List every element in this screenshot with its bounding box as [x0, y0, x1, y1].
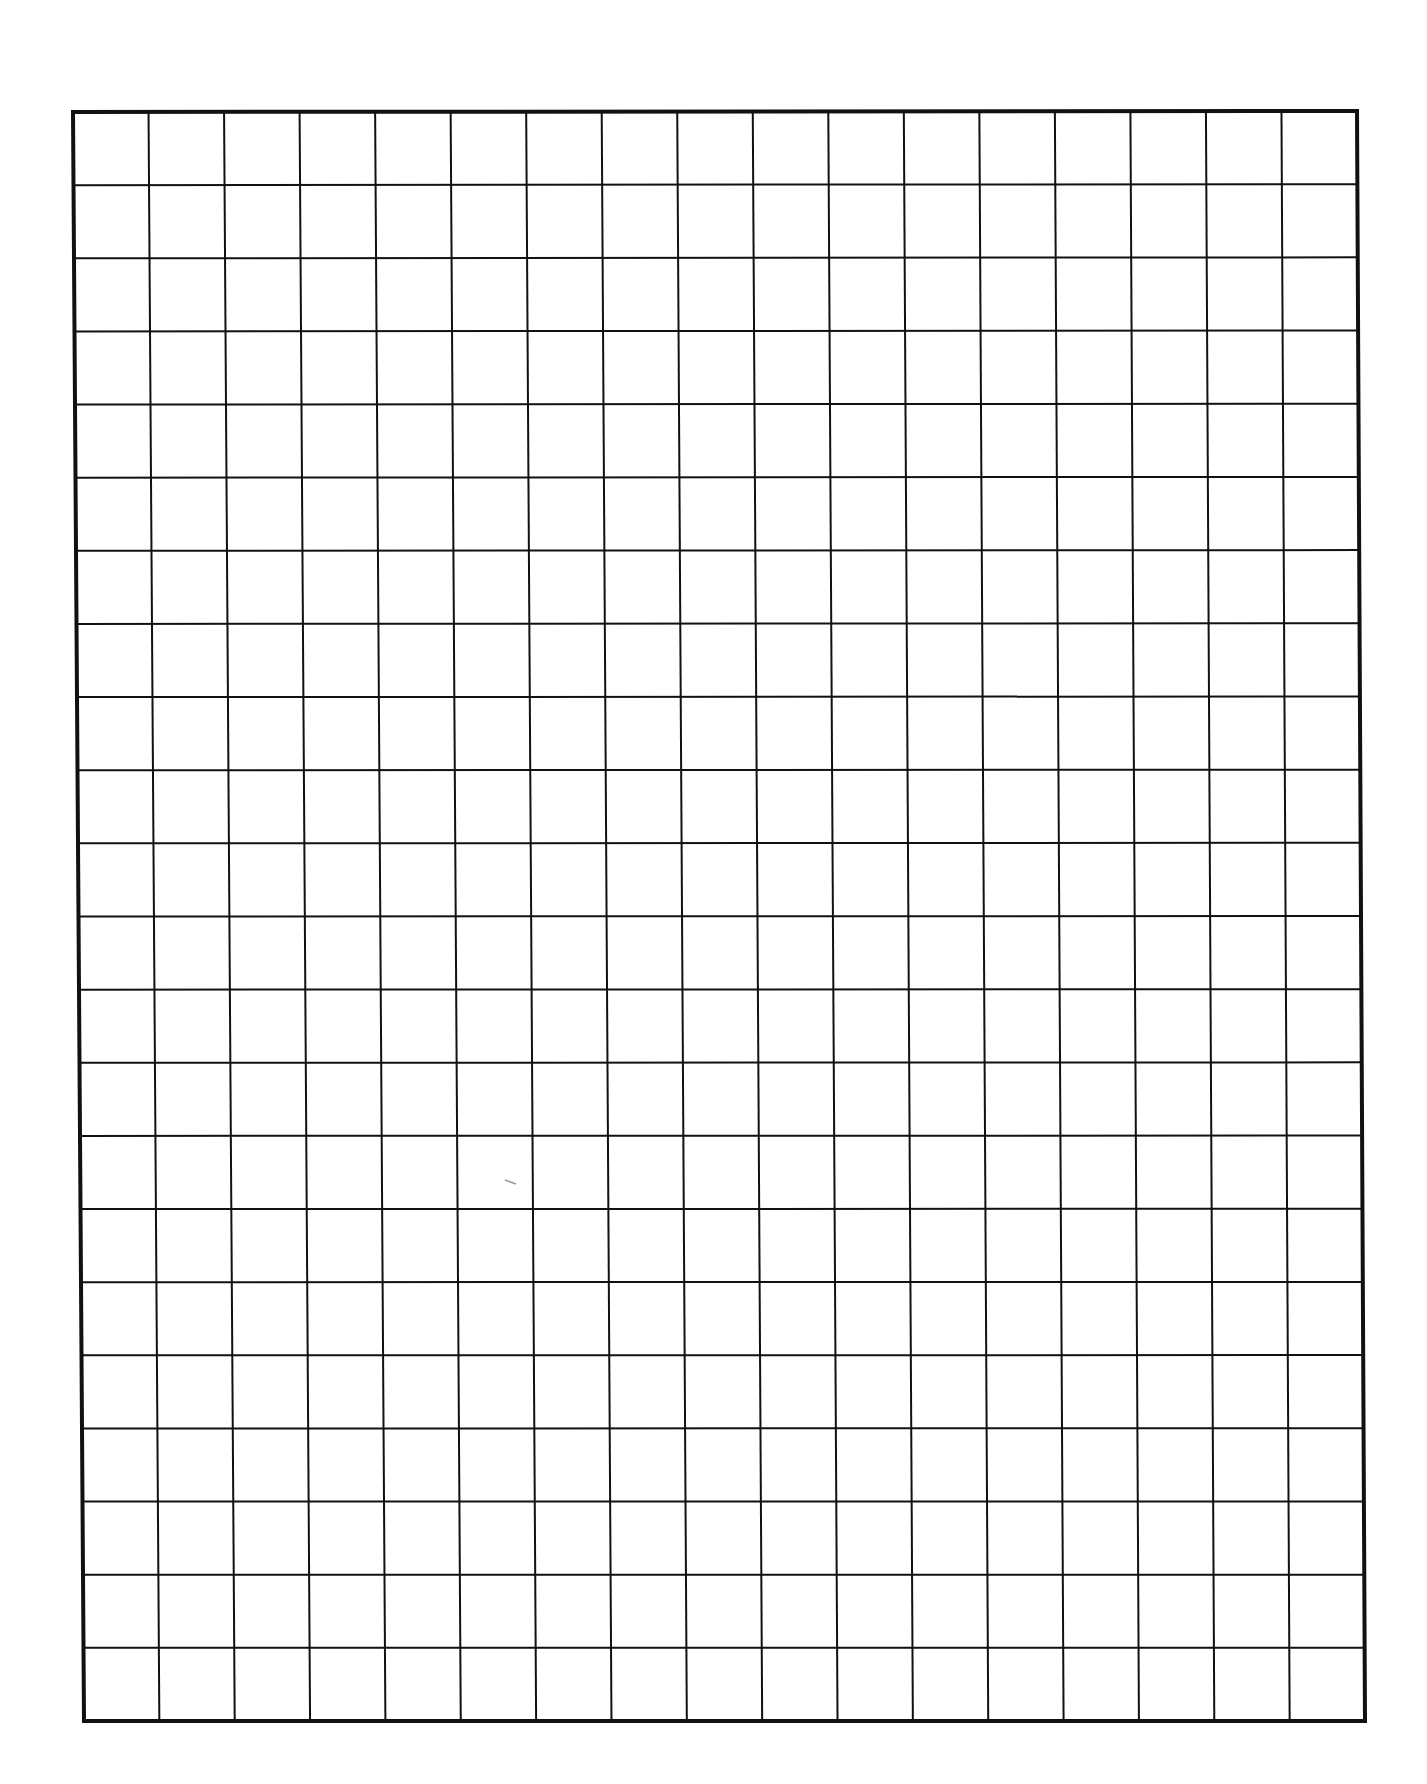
horizontal-grid-line — [78, 770, 1361, 771]
horizontal-grid-line — [75, 331, 1359, 332]
grid-lines — [74, 111, 1365, 1721]
horizontal-grid-line — [77, 696, 1360, 697]
horizontal-grid-line — [74, 257, 1358, 258]
horizontal-grid-line — [74, 184, 1358, 185]
horizontal-grid-line — [76, 550, 1359, 551]
horizontal-grid-line — [79, 916, 1362, 917]
stray-marks — [505, 1180, 516, 1184]
horizontal-grid-line — [76, 477, 1359, 478]
horizontal-grid-line — [75, 404, 1358, 405]
horizontal-grid-line — [78, 843, 1361, 844]
horizontal-grid-line — [77, 623, 1360, 624]
graph-paper-grid — [0, 0, 1427, 1784]
stray-pencil-mark — [505, 1180, 516, 1184]
